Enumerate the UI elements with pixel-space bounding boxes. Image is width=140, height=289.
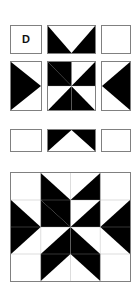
middle-right-unit	[101, 61, 131, 111]
flying-geese-up-shape	[48, 130, 95, 151]
assembled-star-block	[10, 172, 131, 282]
bottom-right-unit	[101, 129, 131, 152]
top-right-unit	[101, 25, 131, 54]
plain-square-shape	[102, 130, 130, 151]
label-square: D	[10, 25, 42, 54]
plain-square-shape	[11, 130, 41, 151]
plain-square-shape	[102, 26, 130, 53]
center-pinwheel-unit	[47, 61, 96, 111]
bottom-center-unit	[47, 129, 96, 152]
top-center-unit	[47, 25, 96, 54]
middle-left-unit	[10, 61, 42, 111]
pinwheel-shape	[48, 62, 95, 110]
flying-geese-down-shape	[48, 26, 95, 53]
quilt-block-diagram: D	[0, 0, 140, 289]
flying-geese-right-shape	[11, 62, 41, 110]
bottom-left-unit	[10, 129, 42, 152]
flying-geese-left-shape	[102, 62, 130, 110]
eight-pointed-star-shape	[11, 173, 130, 281]
block-label-letter: D	[22, 34, 30, 45]
